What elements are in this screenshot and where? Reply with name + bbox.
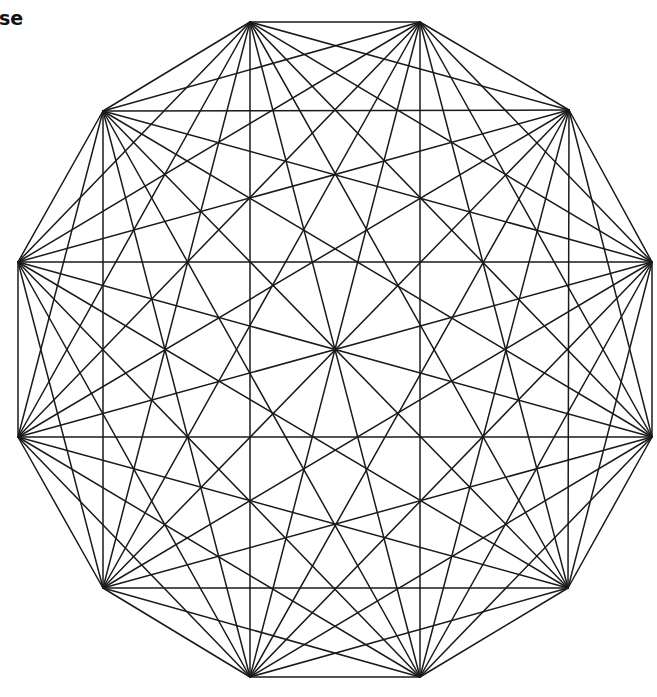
edge-1-3 [250,22,569,110]
edge-3-11 [18,110,569,262]
edge-6-8 [250,588,568,677]
edge-5-12 [103,111,652,437]
complete-graph-diagram [0,0,657,697]
edge-10-12 [18,111,103,437]
edge-3-12 [103,110,569,111]
edge-7-9 [103,588,420,677]
edge-6-10 [18,437,568,588]
edge-5-6 [568,437,652,588]
edge-2-12 [103,22,420,111]
edge-5-9 [103,437,652,588]
edge-8-12 [103,111,250,677]
edge-4-9 [103,262,652,588]
edge-2-11 [18,22,420,262]
edges-group [18,22,652,677]
edge-7-12 [103,111,420,677]
edge-8-11 [18,262,250,677]
edge-5-8 [250,437,652,677]
edge-3-4 [569,110,652,262]
edge-9-11 [18,262,103,588]
edge-2-3 [420,22,569,110]
